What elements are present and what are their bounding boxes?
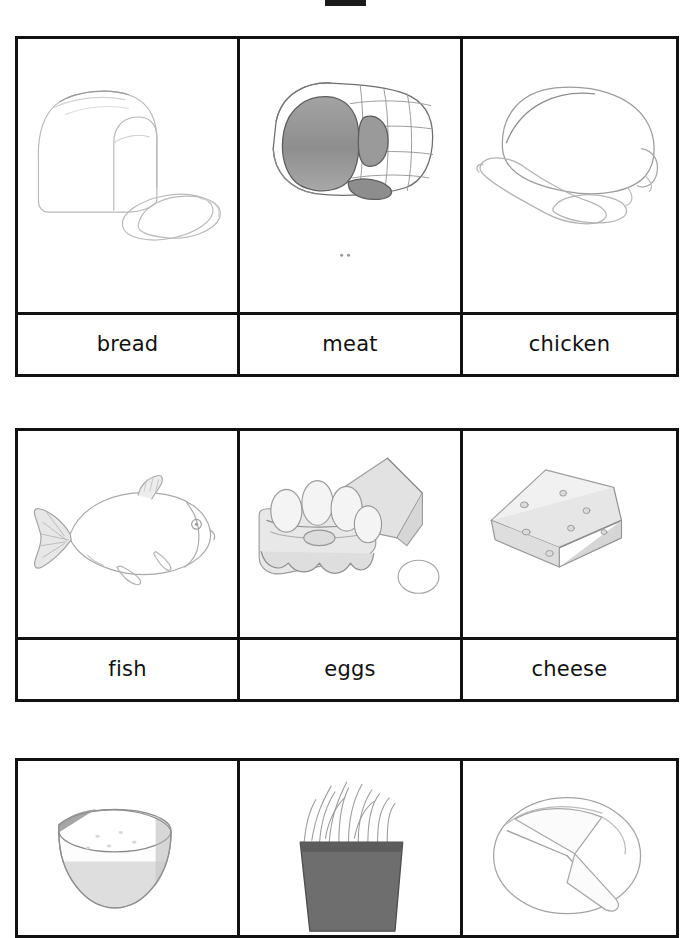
egg-carton-illustration: [240, 431, 460, 637]
card-table-row-1: bread: [15, 36, 679, 377]
fish-illustration: [18, 431, 237, 637]
cheese-wedge-illustration: [463, 431, 676, 637]
pot-of-noodles-illustration: [240, 761, 460, 935]
bread-loaf-illustration: [18, 39, 237, 312]
label-cell-fish: fish: [18, 637, 237, 699]
card-cell-fish[interactable]: fish: [18, 431, 240, 699]
label-cell-chicken: chicken: [463, 312, 676, 374]
card-label-bread: bread: [97, 334, 159, 355]
top-redaction-bar: [325, 0, 366, 6]
card-cell-bread[interactable]: bread: [18, 39, 240, 374]
card-label-cheese: cheese: [532, 659, 608, 680]
card-label-eggs: eggs: [324, 659, 375, 680]
card-label-fish: fish: [108, 659, 146, 680]
card-cell-pie[interactable]: [463, 761, 676, 935]
card-cell-chicken[interactable]: chicken: [463, 39, 676, 374]
pie-with-slice-illustration: [463, 761, 676, 935]
card-cell-rice[interactable]: [18, 761, 240, 935]
card-label-meat: meat: [322, 334, 377, 355]
card-cell-noodles[interactable]: [240, 761, 463, 935]
card-cell-meat[interactable]: meat: [240, 39, 463, 374]
roast-chicken-illustration: [463, 39, 676, 312]
label-cell-meat: meat: [240, 312, 460, 374]
label-cell-eggs: eggs: [240, 637, 460, 699]
card-cell-cheese[interactable]: cheese: [463, 431, 676, 699]
meat-roast-illustration: [240, 39, 460, 312]
label-cell-bread: bread: [18, 312, 237, 374]
label-cell-cheese: cheese: [463, 637, 676, 699]
card-cell-eggs[interactable]: eggs: [240, 431, 463, 699]
bowl-of-rice-illustration: [18, 761, 237, 935]
card-label-chicken: chicken: [529, 334, 610, 355]
card-table-row-2: fish: [15, 428, 679, 702]
card-table-row-3: [15, 758, 679, 938]
